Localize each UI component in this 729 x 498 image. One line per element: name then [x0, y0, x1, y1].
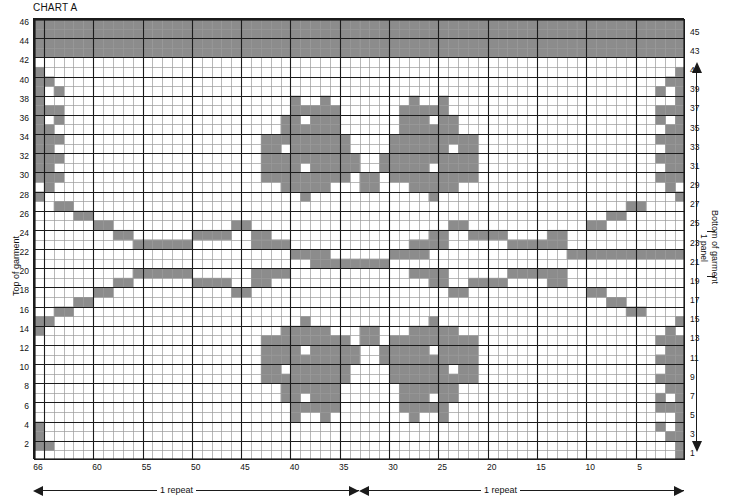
row-number-right: 21	[690, 258, 706, 268]
row-number-left: 20	[10, 267, 29, 277]
row-number-left: 38	[10, 95, 29, 105]
row-number-left: 34	[10, 133, 29, 143]
repeat-arrow-head-mid-right	[349, 486, 359, 496]
row-number-left: 18	[10, 286, 29, 296]
column-number: 30	[383, 462, 403, 472]
column-number: 40	[284, 462, 304, 472]
row-number-left: 10	[10, 363, 29, 373]
row-number-right: 39	[690, 85, 706, 95]
row-number-right: 45	[690, 28, 706, 38]
row-number-right: 15	[690, 315, 706, 325]
row-number-left: 4	[10, 421, 29, 431]
column-number: 35	[334, 462, 354, 472]
row-number-right: 19	[690, 277, 706, 287]
column-number: 45	[235, 462, 255, 472]
column-number: 60	[87, 462, 107, 472]
repeat-indicator-right: 1 repeat	[359, 484, 684, 498]
repeat-arrow-head-right	[674, 486, 684, 496]
row-number-left: 44	[10, 37, 29, 47]
column-number: 10	[580, 462, 600, 472]
row-number-right: 35	[690, 124, 706, 134]
panel-bracket-bottom	[707, 276, 715, 277]
row-number-right: 25	[690, 219, 706, 229]
row-number-left: 14	[10, 325, 29, 335]
row-number-left: 46	[10, 18, 29, 28]
row-number-left: 28	[10, 191, 29, 201]
row-number-right: 17	[690, 296, 706, 306]
chart-page: CHART A Top of garment Bottom of garment…	[0, 0, 729, 498]
panel-bracket-top	[707, 231, 715, 232]
row-number-right: 43	[690, 47, 706, 57]
column-number: 5	[630, 462, 650, 472]
column-number: 25	[432, 462, 452, 472]
row-number-right: 29	[690, 181, 706, 191]
repeat-rule-right	[367, 490, 684, 491]
row-number-left: 42	[10, 56, 29, 66]
row-number-right: 31	[690, 162, 706, 172]
column-number: 50	[186, 462, 206, 472]
row-number-left: 16	[10, 306, 29, 316]
column-number: 66	[28, 462, 48, 472]
repeat-label-right: 1 repeat	[481, 484, 520, 497]
column-number: 15	[531, 462, 551, 472]
row-number-right: 5	[690, 411, 706, 421]
row-number-right: 37	[690, 104, 706, 114]
row-number-right: 1	[690, 449, 706, 459]
page-title: CHART A	[33, 2, 77, 13]
column-number: 55	[136, 462, 156, 472]
row-number-right: 23	[690, 239, 706, 249]
repeat-rule-left	[41, 490, 359, 491]
row-number-left: 26	[10, 210, 29, 220]
row-number-left: 40	[10, 76, 29, 86]
row-number-right: 3	[690, 430, 706, 440]
row-number-right: 13	[690, 334, 706, 344]
column-number: 20	[482, 462, 502, 472]
row-number-left: 24	[10, 229, 29, 239]
row-number-right: 33	[690, 143, 706, 153]
row-number-right: 41	[690, 66, 706, 76]
row-number-right: 27	[690, 200, 706, 210]
row-number-left: 12	[10, 344, 29, 354]
row-number-left: 6	[10, 402, 29, 412]
row-number-left: 30	[10, 171, 29, 181]
repeat-label-left: 1 repeat	[157, 484, 196, 497]
pattern-grid-canvas[interactable]	[34, 19, 685, 460]
row-number-left: 36	[10, 114, 29, 124]
row-number-right: 11	[690, 354, 706, 364]
row-number-left: 32	[10, 152, 29, 162]
bottom-of-garment-label: Bottom of garment	[710, 210, 720, 284]
row-number-right: 7	[690, 392, 706, 402]
row-number-left: 2	[10, 440, 29, 450]
row-number-right: 9	[690, 373, 706, 383]
row-number-left: 22	[10, 248, 29, 258]
row-number-left: 8	[10, 382, 29, 392]
pattern-grid[interactable]	[33, 18, 684, 459]
repeat-indicator-left: 1 repeat	[33, 484, 359, 498]
